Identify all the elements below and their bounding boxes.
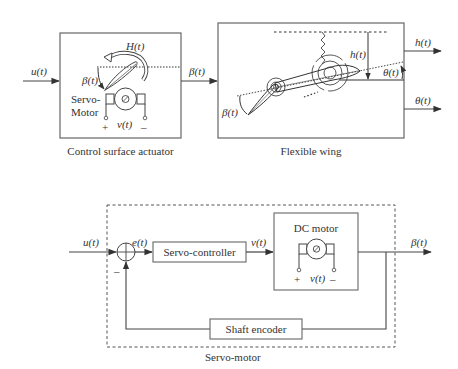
output-theta-label: θ(t) — [415, 94, 431, 107]
dc-motor-block: DC motor + v(t) – — [274, 213, 358, 290]
motor-plus-terminal: + — [294, 273, 300, 285]
enclosure-caption: Servo-motor — [205, 351, 261, 363]
output-h-label: h(t) — [415, 36, 431, 49]
loop-input-arrow: u(t) — [69, 236, 116, 252]
error-signal-label: e(t) — [132, 236, 148, 249]
servo-motor-icon — [104, 88, 147, 120]
loop-input-label: u(t) — [83, 236, 99, 249]
input-u-arrow: u(t) — [23, 65, 59, 81]
wing-flap-label: β(t) — [221, 106, 238, 119]
input-u-label: u(t) — [31, 65, 47, 78]
output-theta-arrow: θ(t) — [404, 94, 441, 109]
motor-minus-terminal: – — [329, 273, 336, 285]
link-beta-arrow: β(t) — [181, 65, 217, 81]
dc-motor-title: DC motor — [294, 222, 339, 234]
wing-block: h(t) θ(t) — [218, 23, 404, 138]
minus-terminal: – — [140, 121, 147, 133]
servo-controller-block: Servo-controller — [153, 242, 246, 262]
shaft-encoder-label: Shaft encoder — [226, 323, 287, 335]
actuator-voltage-label: v(t) — [117, 118, 133, 131]
actuator-caption: Control surface actuator — [67, 145, 174, 157]
bottom-diagram: Servo-motor u(t) e(t) – Servo-controller… — [69, 205, 431, 363]
shaft-encoder-block: Shaft encoder — [210, 319, 302, 339]
wing-pitch-label: θ(t) — [383, 66, 399, 79]
servo-motor-label-line2: Motor — [71, 106, 99, 118]
feedback-sign: – — [113, 265, 120, 277]
servo-controller-label: Servo-controller — [163, 246, 235, 258]
elastic-axis-icon — [312, 55, 348, 91]
spring-icon — [321, 32, 325, 64]
link-beta-label: β(t) — [188, 65, 205, 78]
servo-wing-block-diagram: u(t) H(t) β(t) — [0, 0, 458, 369]
top-diagram: u(t) H(t) β(t) — [23, 23, 441, 157]
servo-motor-label-line1: Servo- — [71, 93, 101, 105]
actuator-block: H(t) β(t) Servo- Motor + v(t) — [60, 33, 181, 138]
wing-caption: Flexible wing — [281, 145, 342, 157]
wing-plunge-label: h(t) — [350, 48, 366, 61]
motor-voltage-label: v(t) — [310, 272, 326, 285]
control-signal-arrow: v(t) — [246, 236, 273, 252]
actuator-beta-label: β(t) — [81, 74, 98, 87]
plus-terminal: + — [102, 121, 108, 133]
control-signal-label: v(t) — [251, 236, 267, 249]
loop-output-label: β(t) — [410, 236, 427, 249]
output-h-arrow: h(t) — [404, 36, 441, 51]
hinge-moment-label: H(t) — [125, 40, 145, 53]
